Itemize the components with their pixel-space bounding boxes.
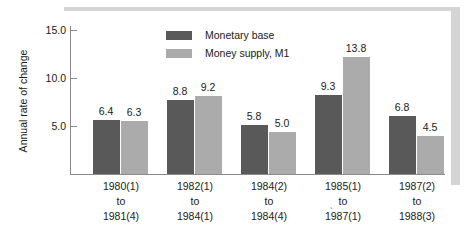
stray-scan-mark: ` xyxy=(330,206,333,216)
bar-monetary-base-5 xyxy=(389,116,416,174)
x-category-5-line3: 1988(3) xyxy=(372,209,462,224)
x-category-5: 1987(2) to 1988(3) xyxy=(372,179,462,225)
bar-money-supply-1 xyxy=(121,121,148,174)
chart-screenshot: Annual rate of change 15.0 10.0 5.0 Mone… xyxy=(0,0,467,239)
bar-value-money-supply-1: 6.3 xyxy=(117,107,151,118)
bar-value-money-supply-5: 4.5 xyxy=(413,122,447,133)
bar-monetary-base-4 xyxy=(315,95,342,174)
y-tick-label-15: 15.0 xyxy=(26,25,66,36)
bar-value-money-supply-4: 13.8 xyxy=(339,43,373,54)
bar-money-supply-2 xyxy=(195,96,222,174)
y-tick-group-15: 15.0 xyxy=(0,30,66,31)
bar-group-4: 9.3 13.8 xyxy=(315,26,370,174)
y-tick-label-5: 5.0 xyxy=(26,121,66,132)
bar-value-monetary-base-5: 6.8 xyxy=(385,102,419,113)
frame-shadow-right-edge xyxy=(451,7,460,185)
y-tick-label-10: 10.0 xyxy=(26,73,66,84)
y-tick-group-5: 5.0 xyxy=(0,126,66,127)
bar-group-5: 6.8 4.5 xyxy=(389,26,444,174)
plot-area: 6.4 6.3 8.8 9.2 5.8 5.0 9.3 13.8 6.8 4. xyxy=(71,26,445,174)
bar-money-supply-3 xyxy=(269,132,296,174)
y-axis-title: Annual rate of change xyxy=(17,26,29,176)
x-category-5-line1: 1987(2) xyxy=(372,179,462,194)
bar-money-supply-5 xyxy=(417,136,444,174)
bar-monetary-base-2 xyxy=(167,100,194,174)
bar-monetary-base-3 xyxy=(241,125,268,174)
x-axis-line xyxy=(70,174,445,175)
bar-value-money-supply-2: 9.2 xyxy=(191,82,225,93)
y-tick-group-10: 10.0 xyxy=(0,78,66,79)
bar-money-supply-4 xyxy=(343,57,370,174)
x-axis-category-labels: 1980(1) to 1981(4) 1982(1) to 1984(1) 19… xyxy=(71,179,445,237)
bar-group-3: 5.8 5.0 xyxy=(241,26,296,174)
bar-group-2: 8.8 9.2 xyxy=(167,26,222,174)
bar-monetary-base-1 xyxy=(93,120,120,174)
bar-value-monetary-base-4: 9.3 xyxy=(311,81,345,92)
bar-value-money-supply-3: 5.0 xyxy=(265,118,299,129)
x-category-5-line2: to xyxy=(372,194,462,209)
bar-group-1: 6.4 6.3 xyxy=(93,26,148,174)
